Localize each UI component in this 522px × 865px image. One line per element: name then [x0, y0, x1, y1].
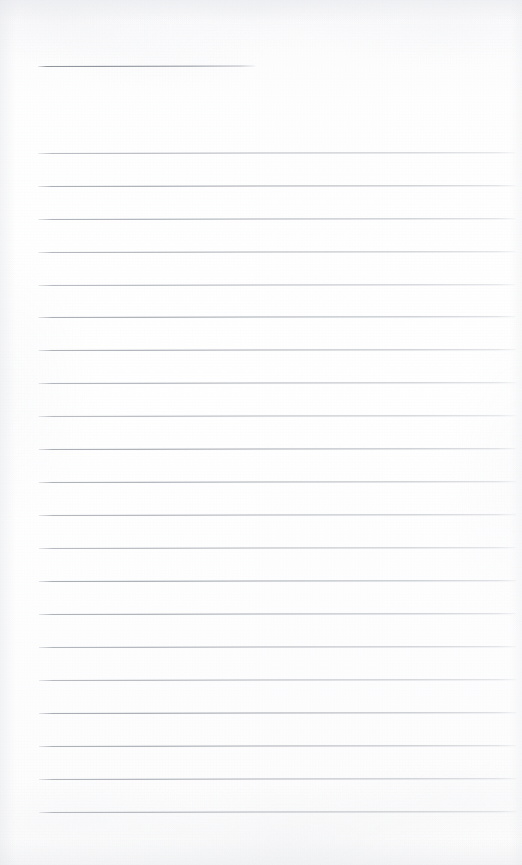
body-rule-9 [39, 415, 516, 417]
body-rule-17 [39, 679, 516, 681]
body-rule-1 [38, 152, 515, 154]
ruled-lines-layer [0, 0, 522, 865]
body-rule-5 [38, 284, 515, 286]
body-rule-7 [39, 349, 516, 351]
body-rule-4 [38, 251, 515, 253]
title-rule [38, 66, 255, 67]
body-rule-21 [39, 811, 516, 813]
body-rule-13 [39, 547, 516, 549]
body-rule-20 [39, 778, 516, 780]
body-rule-10 [39, 448, 516, 450]
body-rule-15 [39, 613, 516, 615]
body-rule-2 [38, 185, 515, 187]
body-rule-18 [39, 712, 516, 714]
body-rule-3 [38, 218, 515, 220]
body-rule-8 [39, 382, 516, 384]
body-rule-11 [39, 481, 516, 483]
body-rule-16 [39, 646, 516, 648]
body-rule-6 [38, 316, 515, 318]
body-rule-14 [39, 580, 516, 582]
body-rule-19 [39, 745, 516, 747]
body-rule-12 [39, 514, 516, 516]
scanned-page [0, 0, 522, 865]
